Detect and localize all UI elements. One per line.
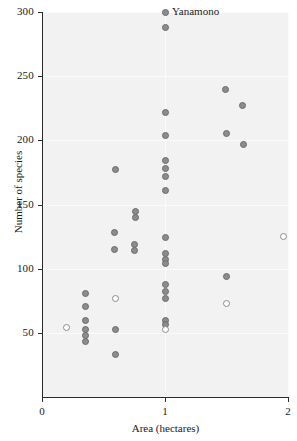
x-axis-title: Area (hectares) [42, 422, 289, 434]
plot-area [42, 12, 288, 397]
y-tick-label: 300 [0, 6, 34, 17]
y-tick-mark [38, 269, 42, 270]
data-point [223, 300, 230, 307]
data-point [162, 295, 169, 302]
y-axis-line [42, 12, 43, 398]
gridline-vertical [288, 12, 289, 397]
y-tick-mark [38, 333, 42, 334]
data-point [162, 9, 169, 16]
x-tick-mark [288, 398, 289, 402]
data-point [162, 187, 169, 194]
data-point [82, 290, 89, 297]
data-point [222, 86, 229, 93]
data-point [162, 165, 169, 172]
y-tick-mark [38, 76, 42, 77]
scatter-plot-figure: 50100150200250300 012 Yanamono Number of… [0, 0, 297, 441]
data-point [240, 141, 247, 148]
y-tick-mark [38, 140, 42, 141]
y-tick-mark [38, 205, 42, 206]
y-tick-label: 50 [0, 327, 34, 338]
data-point [162, 132, 169, 139]
x-tick-label: 1 [155, 405, 175, 417]
y-tick-mark [38, 12, 42, 13]
data-point [162, 326, 169, 333]
data-point [162, 24, 169, 31]
data-point [162, 281, 169, 288]
y-tick-label: 250 [0, 70, 34, 81]
x-tick-mark [42, 398, 43, 402]
data-point [132, 214, 139, 221]
data-point [280, 233, 287, 240]
data-point [162, 109, 169, 116]
x-tick-mark [165, 398, 166, 402]
gridline-vertical [165, 12, 166, 397]
data-point [112, 326, 119, 333]
x-tick-label: 2 [278, 405, 297, 417]
data-point [162, 260, 169, 267]
x-tick-label: 0 [32, 405, 52, 417]
data-point [82, 303, 89, 310]
data-point [162, 157, 169, 164]
data-point [223, 273, 230, 280]
data-point [162, 173, 169, 180]
data-point [82, 317, 89, 324]
annotation-yanamono: Yanamono [172, 5, 219, 17]
y-axis-title: Number of species [12, 112, 24, 272]
